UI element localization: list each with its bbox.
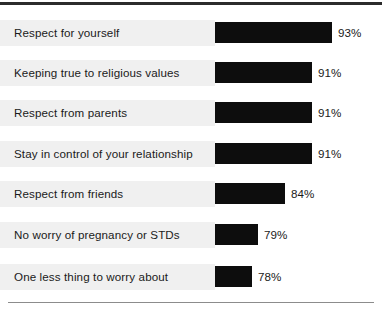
value-bar bbox=[215, 62, 312, 83]
chart-row: One less thing to worry about78% bbox=[0, 264, 382, 290]
category-label: Stay in control of your relationship bbox=[14, 141, 193, 167]
value-label: 91% bbox=[318, 60, 341, 86]
value-bar bbox=[215, 102, 312, 123]
category-label: Respect from parents bbox=[14, 100, 127, 126]
value-label: 84% bbox=[291, 181, 314, 207]
chart-row: Respect for yourself93% bbox=[0, 20, 382, 46]
value-label: 79% bbox=[264, 222, 287, 248]
category-label: Respect for yourself bbox=[14, 20, 119, 46]
value-bar bbox=[215, 266, 252, 287]
category-label: One less thing to worry about bbox=[14, 264, 168, 290]
chart-row: Keeping true to religious values91% bbox=[0, 60, 382, 86]
chart-row: No worry of pregnancy or STDs79% bbox=[0, 222, 382, 248]
value-label: 91% bbox=[318, 100, 341, 126]
value-bar bbox=[215, 183, 285, 204]
category-label: Keeping true to religious values bbox=[14, 60, 179, 86]
horizontal-bar-chart: Respect for yourself93%Keeping true to r… bbox=[0, 0, 382, 313]
chart-row: Respect from friends84% bbox=[0, 181, 382, 207]
category-label: No worry of pregnancy or STDs bbox=[14, 222, 180, 248]
value-bar bbox=[215, 22, 332, 43]
chart-row: Respect from parents91% bbox=[0, 100, 382, 126]
value-label: 91% bbox=[318, 141, 341, 167]
value-bar bbox=[215, 143, 312, 164]
value-label: 78% bbox=[258, 264, 281, 290]
chart-row: Stay in control of your relationship91% bbox=[0, 141, 382, 167]
value-bar bbox=[215, 224, 258, 245]
chart-rows-container: Respect for yourself93%Keeping true to r… bbox=[0, 0, 382, 313]
category-label: Respect from friends bbox=[14, 181, 123, 207]
value-label: 93% bbox=[338, 20, 361, 46]
bottom-divider-rule bbox=[8, 302, 374, 303]
